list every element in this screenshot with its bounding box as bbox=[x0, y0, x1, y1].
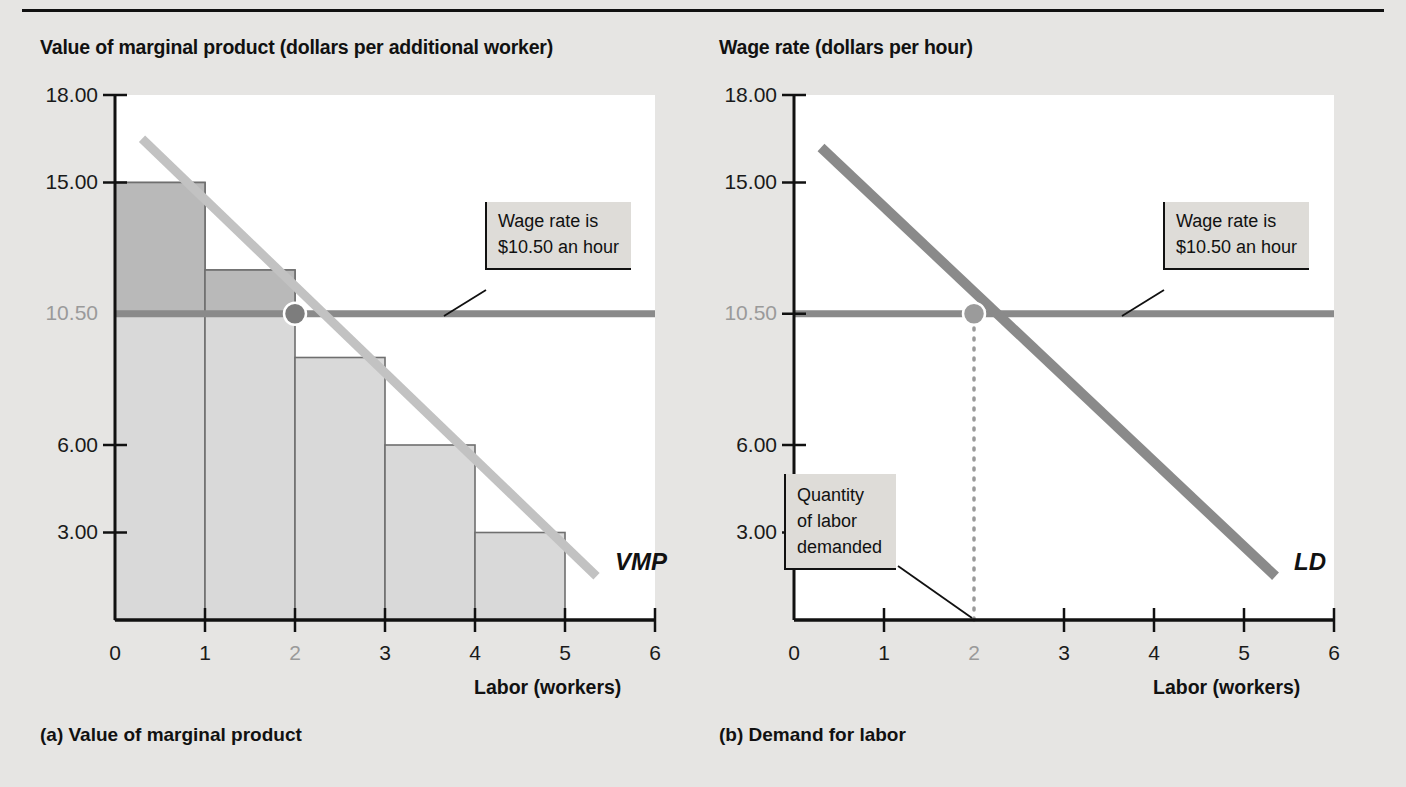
panel-a-ytick-3: 3.00 bbox=[18, 520, 98, 544]
panel-b-xtick-4: 4 bbox=[1129, 641, 1179, 665]
panel-a-curve-label-vmp: VMP bbox=[615, 548, 667, 576]
panel-b-x-axis-label: Labor (workers) bbox=[1153, 676, 1300, 699]
panel-a-xtick-3: 3 bbox=[360, 641, 410, 665]
panel-b-ytick-1050: 10.50 bbox=[697, 301, 777, 325]
panel-a-callout-line-2: $10.50 an hour bbox=[498, 235, 619, 261]
panel-b-ytick-18: 18.00 bbox=[697, 83, 777, 107]
panel-b-xtick-5: 5 bbox=[1219, 641, 1269, 665]
panel-b-ytick-3: 3.00 bbox=[697, 520, 777, 544]
panel-a-xtick-1: 1 bbox=[180, 641, 230, 665]
panel-a-caption: (a) Value of marginal product bbox=[40, 724, 302, 746]
panel-b-plot-area bbox=[700, 0, 1406, 787]
panel-b-xtick-3: 3 bbox=[1039, 641, 1089, 665]
panel-a-xtick-5: 5 bbox=[540, 641, 590, 665]
bar-worker-2 bbox=[205, 270, 295, 620]
panel-b-xtick-6: 6 bbox=[1309, 641, 1359, 665]
panel-b-xtick-1: 1 bbox=[859, 641, 909, 665]
panel-a-ytick-1050: 10.50 bbox=[18, 301, 98, 325]
panel-a-intersection-marker bbox=[284, 303, 306, 325]
panel-a-ytick-6: 6.00 bbox=[18, 433, 98, 457]
bar-worker-5 bbox=[475, 533, 565, 621]
panel-b-wage-rate-callout: Wage rate is $10.50 an hour bbox=[1163, 202, 1309, 270]
panel-a-xtick-4: 4 bbox=[450, 641, 500, 665]
panel-b-curve-label-ld: LD bbox=[1294, 548, 1326, 576]
panel-a-wage-rate-callout: Wage rate is $10.50 an hour bbox=[485, 202, 631, 270]
panel-a-x-axis-label: Labor (workers) bbox=[474, 676, 621, 699]
panel-a-xtick-0: 0 bbox=[90, 641, 140, 665]
panel-b-callout2-line-3: demanded bbox=[797, 534, 882, 560]
panel-b-intersection-marker bbox=[963, 303, 985, 325]
figure-container: Value of marginal product (dollars per a… bbox=[0, 0, 1406, 787]
panel-a-ytick-15: 15.00 bbox=[18, 170, 98, 194]
panel-a-xtick-6: 6 bbox=[630, 641, 680, 665]
panel-b-ytick-6: 6.00 bbox=[697, 433, 777, 457]
panel-b-caption: (b) Demand for labor bbox=[719, 724, 906, 746]
panel-b-callout-line-1: Wage rate is bbox=[1176, 209, 1297, 235]
panel-a-callout-line-1: Wage rate is bbox=[498, 209, 619, 235]
panel-b-callout2-line-2: of labor bbox=[797, 508, 882, 534]
surplus-worker-1 bbox=[115, 183, 205, 314]
panel-b-xtick-2: 2 bbox=[949, 641, 999, 665]
panel-demand-for-labor: Wage rate (dollars per hour) bbox=[700, 0, 1406, 787]
panel-b-xtick-0: 0 bbox=[769, 641, 819, 665]
panel-b-ytick-15: 15.00 bbox=[697, 170, 777, 194]
panel-b-callout2-line-1: Quantity bbox=[797, 482, 882, 508]
panel-value-of-marginal-product: Value of marginal product (dollars per a… bbox=[0, 0, 700, 787]
panel-a-xtick-2: 2 bbox=[270, 641, 320, 665]
panel-b-callout-line-2: $10.50 an hour bbox=[1176, 235, 1297, 261]
bar-worker-4 bbox=[385, 445, 475, 620]
panel-b-quantity-demanded-callout: Quantity of labor demanded bbox=[784, 474, 896, 570]
panel-a-plot-area bbox=[0, 0, 700, 787]
bar-worker-3 bbox=[295, 358, 385, 621]
panel-a-ytick-18: 18.00 bbox=[18, 83, 98, 107]
